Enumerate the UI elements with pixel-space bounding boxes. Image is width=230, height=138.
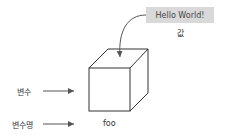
value-caption: 값 [177,27,184,38]
value-box: Hello World! [146,7,214,23]
name-value: foo [103,119,116,128]
variable-label: 변수 [17,86,31,97]
value-arrow [120,15,146,57]
value-text: Hello World! [156,11,205,20]
variable-name-label: 변수명 [12,119,33,130]
cube-icon [89,49,148,111]
